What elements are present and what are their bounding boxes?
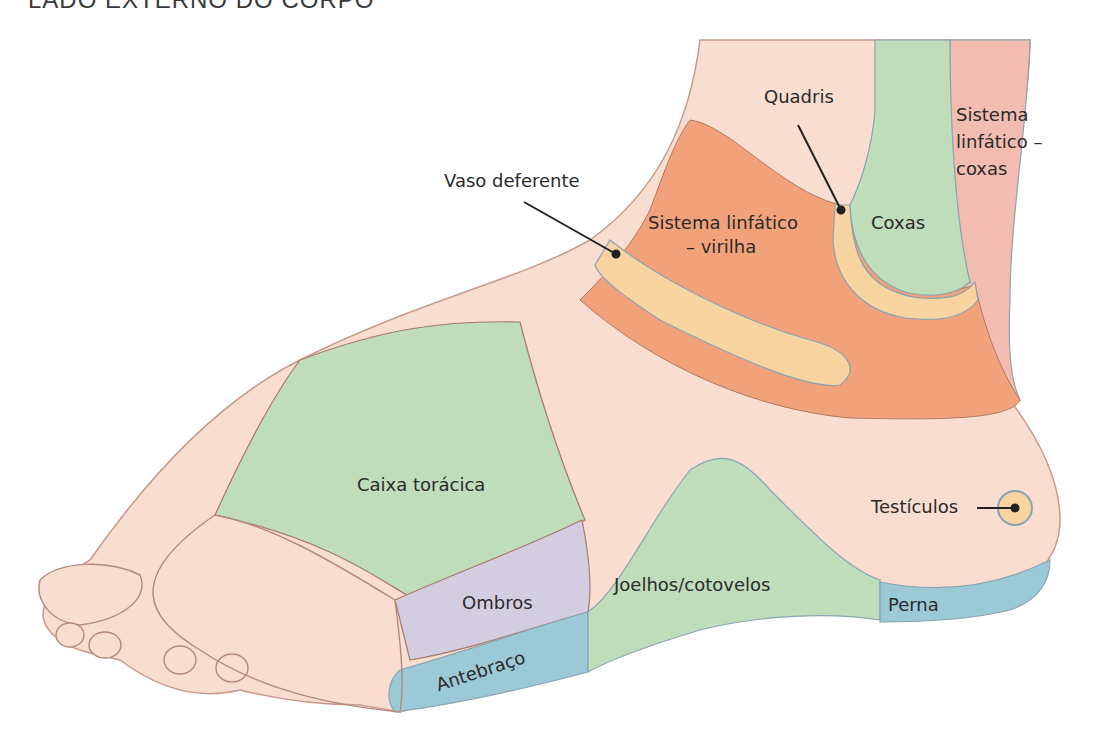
label-sistema-linfatico-virilha-2: – virilha	[686, 236, 756, 258]
label-coxas: Coxas	[871, 212, 925, 234]
label-testiculos: Testículos	[871, 496, 958, 518]
label-joelhos-cotovelos: Joelhos/cotovelos	[614, 574, 770, 596]
label-caixa-toracica: Caixa torácica	[357, 474, 485, 496]
label-sistema-linfatico-coxas-3: coxas	[956, 158, 1007, 180]
label-vaso-deferente: Vaso deferente	[444, 170, 580, 192]
label-sistema-linfatico-coxas-2: linfático –	[956, 131, 1042, 153]
label-sistema-linfatico-virilha-1: Sistema linfático	[648, 212, 798, 234]
label-quadris: Quadris	[764, 86, 834, 108]
foot-reflexology-diagram	[0, 0, 1103, 738]
label-sistema-linfatico-coxas-1: Sistema	[956, 104, 1029, 126]
label-perna: Perna	[888, 594, 939, 616]
label-ombros: Ombros	[462, 592, 533, 614]
